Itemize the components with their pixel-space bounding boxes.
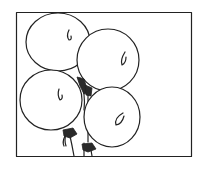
- balloon-illustration: Bunch of four balloons: [0, 0, 202, 172]
- balloon-bottom-right: [84, 87, 140, 147]
- balloon-top-right: [77, 29, 139, 91]
- balloons-drawing: [0, 0, 202, 172]
- balloon-bottom-left: [20, 70, 82, 130]
